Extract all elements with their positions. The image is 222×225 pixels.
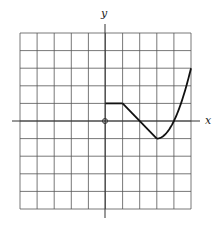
y-axis-label: y (100, 7, 108, 20)
axes: y x (12, 7, 212, 218)
graph: y x (0, 0, 222, 225)
x-axis-label: x (205, 114, 212, 127)
